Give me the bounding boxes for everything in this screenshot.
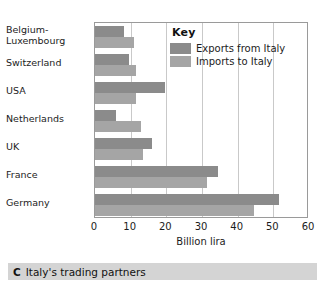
bar (95, 110, 116, 121)
x-axis-title: Billion lira (94, 236, 308, 247)
category-label-line: UK (6, 141, 92, 153)
legend-entries: Exports from ItalyImports to Italy (170, 43, 304, 67)
x-tick-label: 40 (225, 221, 249, 232)
bar-group (95, 194, 307, 216)
bar-group (95, 138, 307, 160)
category-label-line: USA (6, 85, 92, 97)
caption-text: Italy's trading partners (26, 266, 146, 278)
figure-caption: C Italy's trading partners (8, 263, 317, 280)
caption-letter: C (13, 266, 21, 278)
x-tick-label: 10 (118, 221, 142, 232)
category-label-line: Belgium- (6, 24, 92, 36)
x-tick-label: 60 (296, 221, 320, 232)
legend-swatch (170, 43, 191, 54)
chart-legend: Key Exports from ItalyImports to Italy (170, 26, 304, 69)
legend-swatch (170, 56, 191, 67)
category-label-line: Switzerland (6, 57, 92, 69)
bar-group (95, 166, 307, 188)
legend-label: Imports to Italy (196, 56, 273, 67)
bar (95, 82, 165, 93)
bar (95, 37, 134, 48)
x-tick-label: 30 (189, 221, 213, 232)
bar (95, 194, 279, 205)
bar (95, 121, 141, 132)
category-label-line: France (6, 169, 92, 181)
category-label: Netherlands (6, 113, 92, 125)
bar (95, 26, 124, 37)
category-label: Germany (6, 197, 92, 209)
category-label: UK (6, 141, 92, 153)
legend-title: Key (172, 26, 304, 39)
bar (95, 149, 143, 160)
bar (95, 177, 207, 188)
bar (95, 93, 136, 104)
legend-entry: Imports to Italy (170, 56, 304, 67)
x-tick-label: 20 (153, 221, 177, 232)
category-label: France (6, 169, 92, 181)
x-tick-label: 0 (82, 221, 106, 232)
bar (95, 166, 218, 177)
category-label-line: Germany (6, 197, 92, 209)
figure: Belgium-LuxembourgSwitzerlandUSANetherla… (0, 0, 325, 294)
category-label-line: Luxembourg (6, 35, 92, 47)
bar (95, 205, 254, 216)
category-label-line: Netherlands (6, 113, 92, 125)
bar (95, 65, 136, 76)
x-tick-label: 50 (260, 221, 284, 232)
category-label: USA (6, 85, 92, 97)
bar-group (95, 82, 307, 104)
bar (95, 138, 152, 149)
category-label: Switzerland (6, 57, 92, 69)
legend-label: Exports from Italy (196, 43, 285, 54)
category-label: Belgium-Luxembourg (6, 24, 92, 47)
bar-group (95, 110, 307, 132)
bar (95, 54, 129, 65)
legend-entry: Exports from Italy (170, 43, 304, 54)
